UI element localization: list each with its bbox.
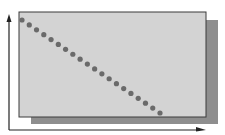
data-point — [41, 32, 46, 37]
y-axis-arrow-icon — [7, 14, 12, 22]
data-point — [107, 76, 112, 81]
diagram-canvas — [0, 0, 225, 135]
data-point — [121, 86, 126, 91]
data-point — [99, 71, 104, 76]
data-point — [150, 106, 155, 111]
data-point — [70, 52, 75, 57]
plot-panel — [19, 12, 206, 117]
x-axis-arrow-icon — [196, 127, 206, 132]
data-point — [136, 96, 141, 101]
data-point — [19, 17, 24, 22]
data-point — [85, 61, 90, 66]
data-point — [63, 47, 68, 52]
data-point — [128, 91, 133, 96]
data-point — [34, 27, 39, 32]
data-point — [27, 22, 32, 27]
data-point — [48, 37, 53, 42]
data-point — [157, 110, 162, 115]
data-point — [114, 81, 119, 86]
data-point — [56, 42, 61, 47]
data-point — [78, 57, 83, 62]
data-point — [143, 101, 148, 106]
data-point — [92, 66, 97, 71]
